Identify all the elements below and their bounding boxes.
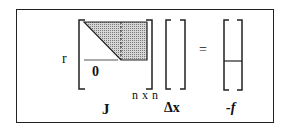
dimension-label: n x n — [132, 89, 159, 101]
jacobian-label: J — [102, 102, 110, 117]
rhs-label: -f — [226, 101, 235, 115]
matrix-equation-graphic — [0, 0, 290, 132]
equals-sign: = — [199, 43, 207, 57]
jacobian-nonzero-region — [84, 22, 147, 60]
rhs-vector-brackets — [224, 20, 242, 90]
zero-block-label: 0 — [92, 65, 99, 79]
delta-x-label: Δx — [164, 101, 180, 115]
delta-x-brackets — [166, 20, 185, 89]
row-count-label: r — [62, 52, 67, 66]
